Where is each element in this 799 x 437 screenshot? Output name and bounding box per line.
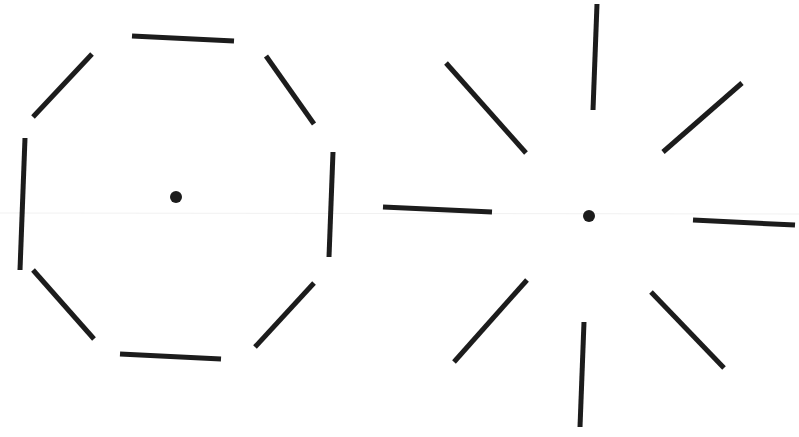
line-segment [593,4,597,110]
line-segment [329,152,333,257]
line-segment [255,283,314,347]
line-segment [132,36,234,41]
line-segment [266,56,314,124]
line-segment [580,322,584,427]
line-segment [383,207,492,212]
line-segment [33,54,92,117]
fixation-dot [583,210,595,222]
fixation-dot [170,191,182,203]
radial-arrangement [383,4,795,427]
line-segment [693,220,795,225]
line-segment [663,83,742,152]
line-segment [120,354,221,359]
line-segment [446,63,526,153]
scan-artifact-line [0,213,799,214]
line-segment [454,280,527,362]
figure-canvas [0,0,799,437]
line-segment [33,270,94,339]
octagon-arrangement [20,36,333,359]
line-segment [651,292,724,368]
line-segment [20,138,25,270]
